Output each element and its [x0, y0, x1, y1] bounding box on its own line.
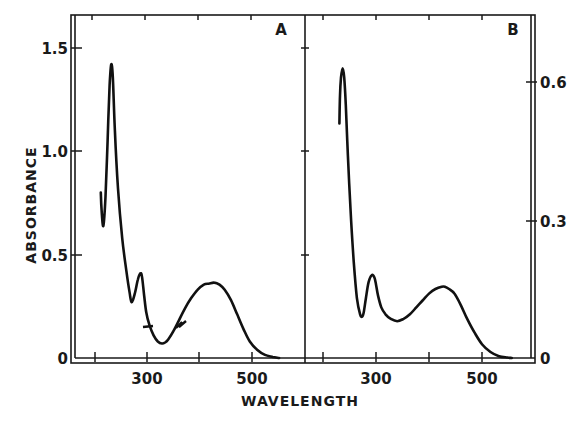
x-tick-a-300: 300	[131, 370, 162, 388]
x-tick-b-300: 300	[360, 370, 391, 388]
panel-label-b: B	[507, 21, 518, 39]
x-tick-b-500: 500	[466, 370, 497, 388]
y-tick-1.5: 1.5	[41, 40, 68, 58]
panel-label-a: A	[275, 21, 287, 39]
absorbance-spectra-figure: 1.5 1.0 0.5 0 0.6 0.3 0 300 500 300 500 …	[0, 0, 586, 423]
y2-tick-0.6: 0.6	[540, 74, 567, 92]
x-tick-a-500: 500	[236, 370, 267, 388]
right-y-axis: 0.6 0.3 0	[526, 74, 567, 368]
y-tick-0.5: 0.5	[41, 247, 68, 265]
spectrum-curve-b	[339, 68, 511, 358]
x-axis-title: WAVELENGTH	[241, 393, 359, 409]
plot-frame	[71, 15, 535, 363]
y2-tick-0.3: 0.3	[540, 213, 567, 231]
y-tick-1.0: 1.0	[41, 143, 68, 161]
y-axis-title: ABSORBANCE	[23, 146, 39, 263]
left-y-axis: 1.5 1.0 0.5 0	[41, 40, 309, 368]
y2-tick-0: 0	[540, 350, 550, 368]
y-tick-0: 0	[58, 350, 68, 368]
spectrum-curve-a	[101, 64, 279, 358]
